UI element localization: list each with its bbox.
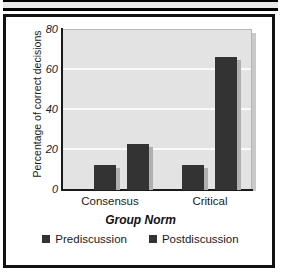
legend-swatch-icon — [42, 235, 50, 243]
legend-item-prediscussion: Prediscussion — [42, 233, 127, 245]
legend-swatch-icon — [149, 235, 157, 243]
y-tick-label-20: 20 — [46, 144, 58, 155]
y-tick-label-40: 40 — [46, 104, 58, 115]
y-axis-line — [61, 28, 63, 191]
legend-item-postdiscussion: Postdiscussion — [149, 233, 239, 245]
y-tick-label-0: 0 — [52, 184, 58, 195]
bar-consensus-postdiscussion — [127, 144, 149, 190]
bar-consensus-prediscussion — [94, 165, 116, 190]
x-axis-title: Group Norm — [0, 213, 281, 227]
x-tick-label-critical: Critical — [170, 195, 250, 207]
y-axis-title: Percentage of correct decisions — [31, 19, 43, 189]
chart-legend: Prediscussion Postdiscussion — [0, 233, 281, 245]
y-tick-label-80: 80 — [46, 24, 58, 35]
y-tick-label-60: 60 — [46, 64, 58, 75]
legend-label-postdiscussion: Postdiscussion — [162, 233, 239, 245]
figure-container: 80 60 40 20 0 Percentage of correct deci… — [0, 0, 281, 272]
bar-critical-prediscussion — [182, 165, 204, 190]
legend-label-prediscussion: Prediscussion — [55, 233, 127, 245]
bar-critical-postdiscussion — [215, 57, 237, 190]
x-tick-label-consensus: Consensus — [70, 195, 150, 207]
